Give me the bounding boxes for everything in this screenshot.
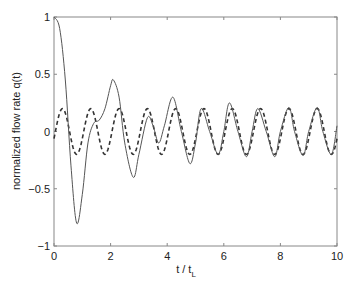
x-tick-label: 8 [277,250,283,262]
y-tick-label: 1 [44,11,50,23]
x-tick-label: 6 [221,250,227,262]
line-chart: 0246810 10.50−0.5−1 t / tL normalized fl… [0,0,357,291]
y-tick-label: 0 [44,126,50,138]
x-tick-label: 0 [51,250,57,262]
x-axis-label-sub: L [191,270,196,279]
y-tick-labels: 10.50−0.5−1 [28,11,50,252]
x-tick-labels: 0246810 [51,250,343,262]
x-tick-label: 10 [331,250,343,262]
y-tick-label: 0.5 [35,68,50,80]
y-tick-label: −1 [37,240,50,252]
x-axis-label: t / tL [176,263,196,279]
y-tick-label: −0.5 [28,183,50,195]
x-axis-label-main: t / t [176,263,191,275]
x-tick-label: 2 [108,250,114,262]
y-axis-label: normalized flow rate q(t) [10,72,22,190]
x-tick-label: 4 [164,250,170,262]
